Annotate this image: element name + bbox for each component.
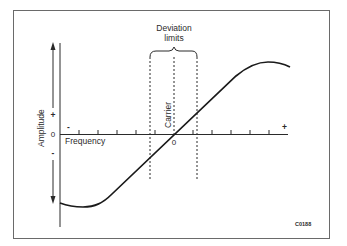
deviation-brace [150, 47, 197, 57]
deviation-limit-lines [150, 57, 197, 180]
amplitude-label: Amplitude [36, 109, 46, 147]
deviation-label-line1: Deviation [156, 23, 192, 33]
frequency-minus: - [67, 122, 70, 132]
frequency-label: Frequency [65, 136, 106, 146]
frequency-zero: 0 [172, 138, 177, 147]
amplitude-down-arrow [51, 160, 56, 204]
frequency-plus: + [282, 122, 287, 132]
deviation-label-line2: limits [164, 33, 183, 43]
amplitude-plus: + [51, 110, 56, 120]
figure-code: C0188 [295, 221, 311, 227]
frequency-deviation-diagram: Deviation limits Carrier Frequency - + 0… [0, 0, 347, 246]
amplitude-zero: 0 [51, 130, 56, 139]
amplitude-minus: - [52, 148, 55, 158]
carrier-label: Carrier [163, 102, 173, 128]
amplitude-up-arrow [51, 42, 56, 108]
